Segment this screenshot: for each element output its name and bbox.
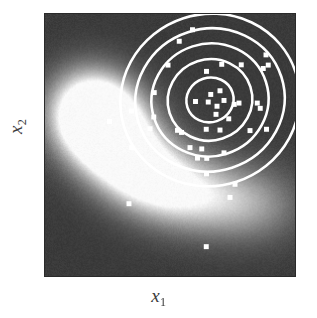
scatter-point: [177, 39, 182, 44]
x-axis-label: x1: [0, 286, 317, 305]
scatter-point: [228, 195, 233, 200]
scatter-point: [190, 27, 195, 32]
scatter-point: [188, 145, 193, 150]
scatter-point: [219, 62, 224, 67]
scatter-point: [233, 182, 238, 187]
scatter-point: [151, 114, 156, 119]
contour-ellipse-level-5: [98, 14, 295, 209]
scatter-point: [218, 88, 223, 93]
scatter-point: [226, 116, 231, 121]
scatter-point: [204, 127, 209, 132]
scatter-point: [204, 171, 209, 176]
scatter-point: [237, 101, 242, 106]
scatter-point: [204, 156, 209, 161]
scatter-point: [261, 66, 266, 71]
scatter-point: [215, 104, 220, 109]
plot-area: [44, 13, 296, 277]
scatter-point: [129, 108, 134, 113]
x-axis-label-base: x: [151, 285, 159, 306]
scatter-point: [148, 126, 153, 131]
scatter-point: [264, 127, 269, 132]
y-axis-label: x2: [6, 119, 25, 134]
scatter-point: [129, 145, 134, 150]
scatter-point: [214, 112, 219, 117]
contour-and-scatter-overlay: [45, 14, 295, 276]
scatter-point: [232, 102, 237, 107]
scatter-point: [199, 146, 204, 151]
scatter-point: [204, 69, 209, 74]
scatter-point: [204, 244, 209, 249]
scatter-point: [248, 128, 253, 133]
x-axis-label-sub: 1: [160, 295, 166, 309]
scatter-point: [222, 150, 227, 155]
scatter-point: [179, 130, 184, 135]
scatter-point: [255, 101, 260, 106]
scatter-point: [127, 201, 132, 206]
y-axis-label-base: x: [5, 126, 26, 134]
scatter-point: [152, 90, 157, 95]
scatter-point: [166, 63, 171, 68]
scatter-point: [107, 119, 112, 124]
scatter-point: [239, 62, 244, 67]
figure-root: x1 x2: [0, 0, 317, 318]
scatter-point: [266, 63, 271, 68]
scatter-point: [195, 156, 200, 161]
scatter-point: [193, 99, 198, 104]
y-axis-label-sub: 2: [15, 119, 29, 125]
scatter-point: [222, 98, 227, 103]
scatter-point: [206, 100, 211, 105]
scatter-point: [258, 106, 263, 111]
scatter-point: [264, 52, 269, 57]
scatter-point: [218, 128, 223, 133]
scatter-point: [208, 92, 213, 97]
contour-ellipses: [98, 14, 295, 209]
